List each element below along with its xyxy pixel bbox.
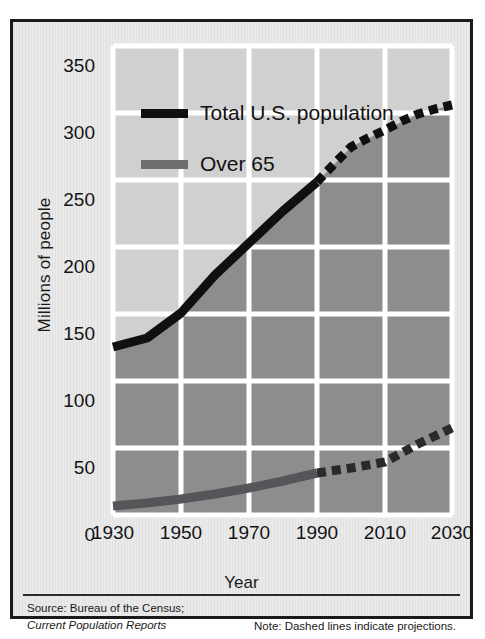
legend-item-total-population: Total U.S. population: [141, 101, 394, 125]
plot-region: 350 300 250 200 150 100 50 0: [13, 22, 470, 542]
x-axis-title: Year: [13, 573, 470, 593]
footer-divider: [23, 594, 460, 596]
legend-label-total-population: Total U.S. population: [200, 101, 394, 125]
source-note: Source: Bureau of the Census; Current Po…: [27, 600, 184, 633]
x-tick-2010: 2010: [350, 522, 420, 544]
legend-item-over-65: Over 65: [141, 152, 275, 176]
x-tick-1950: 1950: [146, 522, 216, 544]
source-line-1: Source: Bureau of the Census;: [27, 600, 184, 617]
x-tick-1970: 1970: [214, 522, 284, 544]
x-tick-2030: 2030: [417, 522, 485, 544]
source-line-2: Current Population Reports: [27, 617, 184, 634]
x-tick-1990: 1990: [282, 522, 352, 544]
chart-screenshot: 350 300 250 200 150 100 50 0: [0, 0, 485, 639]
y-axis-title: Millions of people: [35, 170, 55, 360]
projection-note: Note: Dashed lines indicate projections.: [254, 618, 456, 635]
x-tick-1930: 1930: [78, 522, 148, 544]
chart-card: 350 300 250 200 150 100 50 0: [10, 19, 473, 619]
plot-svg: [13, 22, 470, 542]
legend-swatch-over-65: [141, 160, 188, 169]
legend-label-over-65: Over 65: [200, 152, 275, 176]
legend-swatch-total-population: [141, 109, 188, 118]
